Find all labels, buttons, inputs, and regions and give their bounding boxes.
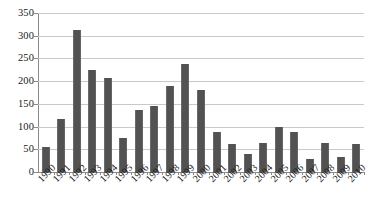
bar-slot — [85, 13, 101, 172]
bar[interactable] — [181, 64, 189, 172]
bar-slot — [100, 13, 116, 172]
bars — [38, 13, 364, 172]
bar-slot — [240, 13, 256, 172]
x-tick-mark — [147, 172, 148, 175]
bar-slot — [333, 13, 349, 172]
bar-slot — [271, 13, 287, 172]
bar-slot — [131, 13, 147, 172]
y-tick-label: 100 — [4, 122, 34, 133]
y-tick-label: 350 — [4, 8, 34, 19]
x-tick-mark — [333, 172, 334, 175]
x-tick-mark — [54, 172, 55, 175]
bar-slot — [162, 13, 178, 172]
bar-slot — [286, 13, 302, 172]
y-tick-label: 200 — [4, 76, 34, 87]
y-tick-label: 0 — [4, 167, 34, 178]
bar-slot — [209, 13, 225, 172]
y-tick-label: 50 — [4, 144, 34, 155]
x-tick-mark — [317, 172, 318, 175]
bar-slot — [255, 13, 271, 172]
bar-slot — [317, 13, 333, 172]
bar[interactable] — [104, 78, 112, 172]
bar[interactable] — [197, 90, 205, 172]
x-tick-mark — [131, 172, 132, 175]
x-tick-mark — [85, 172, 86, 175]
bar-slot — [147, 13, 163, 172]
x-tick-mark — [240, 172, 241, 175]
y-tick-label: 250 — [4, 53, 34, 64]
plot-area — [38, 13, 364, 172]
bar[interactable] — [88, 70, 96, 172]
bar-slot — [193, 13, 209, 172]
x-tick-mark — [224, 172, 225, 175]
x-tick-mark — [162, 172, 163, 175]
bar[interactable] — [73, 30, 81, 172]
bar-slot — [224, 13, 240, 172]
bar-slot — [38, 13, 54, 172]
bar-slot — [302, 13, 318, 172]
x-tick-mark — [193, 172, 194, 175]
x-tick-mark — [364, 172, 365, 175]
x-tick-mark — [100, 172, 101, 175]
y-tick-label: 300 — [4, 31, 34, 42]
bar-slot — [348, 13, 364, 172]
bar[interactable] — [166, 86, 174, 172]
x-tick-mark — [302, 172, 303, 175]
x-tick-mark — [69, 172, 70, 175]
x-tick-mark — [348, 172, 349, 175]
y-tick-label: 150 — [4, 99, 34, 110]
bar-slot — [178, 13, 194, 172]
y-axis-labels: 050100150200250300350 — [0, 13, 34, 172]
bar-slot — [69, 13, 85, 172]
x-tick-mark — [255, 172, 256, 175]
x-tick-mark — [116, 172, 117, 175]
x-tick-mark — [209, 172, 210, 175]
bar-slot — [116, 13, 132, 172]
bar-chart: 050100150200250300350 199019911992199319… — [0, 0, 370, 208]
bar-slot — [54, 13, 70, 172]
x-tick-mark — [178, 172, 179, 175]
x-tick-mark — [286, 172, 287, 175]
x-tick-mark — [271, 172, 272, 175]
